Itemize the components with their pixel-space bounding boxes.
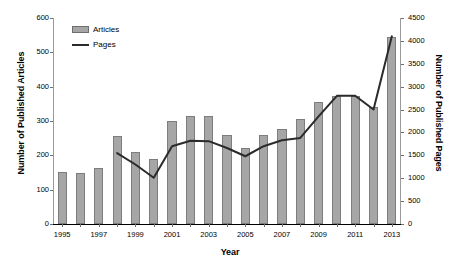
x-axis-tick-2007: 2007 bbox=[262, 230, 302, 239]
x-axis-tick-1997: 1997 bbox=[79, 230, 119, 239]
y-axis-right-tick-500: 500 bbox=[408, 196, 434, 205]
y-axis-right-tick-1500: 1500 bbox=[408, 150, 434, 159]
y-axis-right-tickmark bbox=[401, 87, 404, 88]
y-axis-right-title: Number of Published Pages bbox=[434, 38, 444, 188]
y-axis-right-tickmark bbox=[401, 41, 404, 42]
y-axis-right-tick-1000: 1000 bbox=[408, 173, 434, 182]
y-axis-right-tickmark bbox=[401, 201, 404, 202]
y-axis-right-tick-4500: 4500 bbox=[408, 13, 434, 22]
y-axis-left-tick-500: 500 bbox=[23, 47, 49, 56]
line-swatch-icon bbox=[72, 44, 89, 46]
y-axis-right-tickmark bbox=[401, 224, 404, 225]
x-axis-tick-2001: 2001 bbox=[152, 230, 192, 239]
y-axis-right-tickmark bbox=[401, 18, 404, 19]
y-axis-left-title: Number of Published Articles bbox=[16, 38, 26, 188]
y-axis-right-tick-4000: 4000 bbox=[408, 36, 434, 45]
x-axis-tick-1995: 1995 bbox=[42, 230, 82, 239]
chart-legend: Articles Pages bbox=[72, 22, 119, 52]
y-axis-left-tick-300: 300 bbox=[23, 116, 49, 125]
x-axis-tick-2005: 2005 bbox=[225, 230, 265, 239]
legend-item-pages: Pages bbox=[72, 37, 119, 52]
y-axis-right-tick-2000: 2000 bbox=[408, 127, 434, 136]
x-axis-tick-2011: 2011 bbox=[335, 230, 375, 239]
y-axis-right-tickmark bbox=[401, 155, 404, 156]
y-axis-left-tick-0: 0 bbox=[23, 219, 49, 228]
x-axis-tick-2009: 2009 bbox=[299, 230, 339, 239]
x-axis-tick-1999: 1999 bbox=[115, 230, 155, 239]
y-axis-right-tick-3000: 3000 bbox=[408, 82, 434, 91]
y-axis-left-tick-200: 200 bbox=[23, 150, 49, 159]
legend-item-articles: Articles bbox=[72, 22, 119, 37]
y-axis-right-tickmark bbox=[401, 110, 404, 111]
x-axis-title: Year bbox=[0, 247, 460, 257]
pages-polyline bbox=[117, 36, 392, 177]
bar-swatch-icon bbox=[72, 26, 89, 33]
legend-label-articles: Articles bbox=[93, 25, 119, 34]
y-axis-right-tickmark bbox=[401, 64, 404, 65]
y-axis-right-tickmark bbox=[401, 132, 404, 133]
y-axis-left-tick-400: 400 bbox=[23, 82, 49, 91]
y-axis-right-tick-3500: 3500 bbox=[408, 59, 434, 68]
y-axis-right-tick-2500: 2500 bbox=[408, 105, 434, 114]
legend-label-pages: Pages bbox=[93, 40, 116, 49]
y-axis-right-tickmark bbox=[401, 178, 404, 179]
y-axis-right-tick-0: 0 bbox=[408, 219, 434, 228]
combo-chart: Number of Published Articles Number of P… bbox=[0, 0, 460, 273]
y-axis-left-tick-600: 600 bbox=[23, 13, 49, 22]
x-axis-tick-2003: 2003 bbox=[189, 230, 229, 239]
x-axis-tick-2013: 2013 bbox=[372, 230, 412, 239]
y-axis-left-tick-100: 100 bbox=[23, 185, 49, 194]
